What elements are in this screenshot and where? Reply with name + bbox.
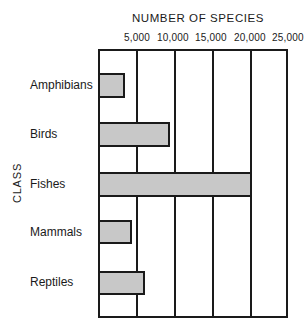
x-tick-5000: 5,000 bbox=[117, 32, 157, 43]
bar-fishes bbox=[98, 172, 252, 197]
x-tick-20000: 20,000 bbox=[230, 32, 270, 43]
bar-amphibians bbox=[98, 73, 125, 98]
chart-title: NUMBER OF SPECIES bbox=[98, 12, 298, 24]
x-tick-10000: 10,000 bbox=[153, 32, 193, 43]
y-axis-label: CLASS bbox=[11, 163, 23, 203]
x-tick-15000: 15,000 bbox=[191, 32, 231, 43]
category-label-reptiles: Reptiles bbox=[30, 275, 73, 289]
category-label-fishes: Fishes bbox=[30, 177, 65, 191]
bar-birds bbox=[98, 122, 170, 147]
category-label-birds: Birds bbox=[30, 127, 57, 141]
bar-reptiles bbox=[98, 271, 145, 295]
category-label-mammals: Mammals bbox=[30, 225, 82, 239]
bar-mammals bbox=[98, 220, 132, 244]
category-label-amphibians: Amphibians bbox=[30, 78, 93, 92]
plot-area bbox=[98, 49, 288, 318]
x-tick-25000: 25,000 bbox=[268, 32, 307, 43]
